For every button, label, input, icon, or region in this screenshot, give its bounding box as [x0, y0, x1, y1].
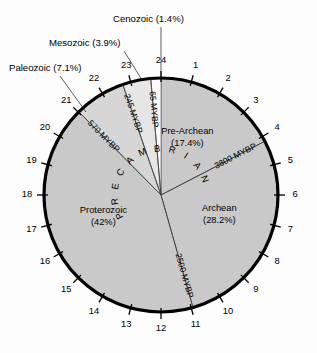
- hour-number-12: 12: [156, 322, 166, 333]
- hour-number-1: 1: [193, 59, 198, 70]
- figure-canvas: 123456789101112131415161718192021222324 …: [0, 0, 317, 353]
- hour-number-22: 22: [89, 72, 99, 83]
- hour-number-11: 11: [191, 318, 201, 329]
- hour-number-10: 10: [223, 305, 233, 316]
- hour-number-4: 4: [274, 121, 279, 132]
- hour-number-15: 15: [61, 283, 71, 294]
- hour-number-8: 8: [274, 255, 279, 266]
- hour-number-14: 14: [89, 305, 99, 316]
- hour-number-9: 9: [253, 283, 258, 294]
- hour-number-18: 18: [22, 188, 32, 199]
- hour-number-19: 19: [26, 154, 36, 165]
- hour-number-16: 16: [40, 255, 50, 266]
- hour-number-3: 3: [253, 94, 258, 105]
- hour-number-2: 2: [225, 72, 230, 83]
- hour-number-20: 20: [40, 121, 50, 132]
- precambrian-char-6: B: [154, 142, 161, 153]
- cenozoic-callout-text: Cenozoic (1.4%): [113, 13, 184, 24]
- geologic-time-clock-diagram: 123456789101112131415161718192021222324 …: [0, 0, 317, 353]
- paleozoic-callout-text: Paleozoic (7.1%): [9, 62, 82, 73]
- hour-number-6: 6: [292, 188, 297, 199]
- hour-number-5: 5: [288, 154, 293, 165]
- hour-number-21: 21: [61, 94, 71, 105]
- era-label-percent-archean: (28.2%): [203, 215, 236, 225]
- hour-number-13: 13: [121, 318, 131, 329]
- era-label-name-pre-archean: Pre-Archean: [161, 126, 213, 136]
- era-label-percent-proterozoic: (42%): [91, 217, 116, 227]
- hour-number-7: 7: [288, 223, 293, 234]
- hour-number-17: 17: [26, 223, 36, 234]
- era-label-name-archean: Archean: [202, 203, 237, 213]
- mesozoic-callout-text: Mesozoic (3.9%): [49, 37, 120, 48]
